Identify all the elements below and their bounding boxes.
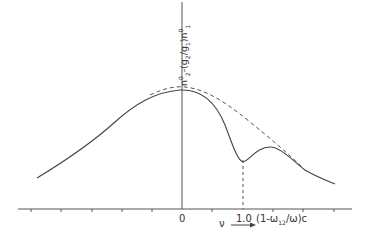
x-tick-label-one: 1.0 [236,214,252,224]
solid-curve [37,90,335,184]
x-unit-label: (1-ω12/ω)c [256,214,307,226]
x-variable-label: ν [219,219,225,229]
y-axis-label: n02-(g2/g1)n01 [177,25,191,86]
x-tick-label-zero: 0 [179,214,185,224]
dashed-curve [150,87,305,170]
